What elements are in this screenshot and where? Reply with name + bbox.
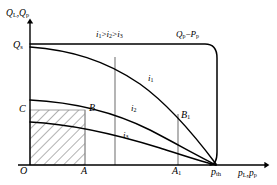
qs-label: Qs xyxy=(13,40,23,51)
figure-canvas xyxy=(0,0,277,185)
pth-label: pth xyxy=(211,167,221,178)
a1-label: A1 xyxy=(172,166,181,177)
x-axis-label: pL,pp xyxy=(238,169,257,179)
origin-label: O xyxy=(20,166,27,176)
curve-label-i2: i2 xyxy=(131,104,136,114)
y-axis-label: QL,Qp xyxy=(6,9,29,19)
b-label: B xyxy=(89,103,95,113)
inequality-annotation: i1>i2>i3 xyxy=(96,30,123,40)
curve-label-i1: i1 xyxy=(148,74,153,84)
b1-label: B1 xyxy=(181,110,190,121)
work-area-hatched-rect xyxy=(30,110,85,165)
curve-label-i3: i3 xyxy=(123,131,128,141)
pump-load-characteristic-figure: QL,Qp pL,pp O Qs C B A B1 A1 pth i1>i2>i… xyxy=(0,0,277,185)
pump-curve-annotation: Qp−Pp xyxy=(176,30,199,40)
a-label: A xyxy=(81,166,87,176)
c-label: C xyxy=(19,104,26,114)
